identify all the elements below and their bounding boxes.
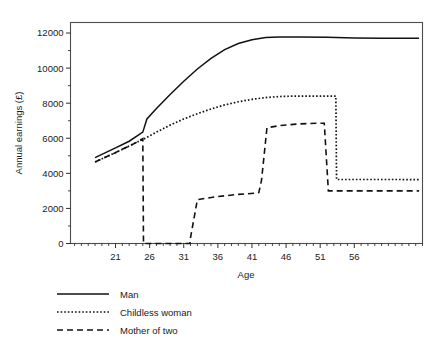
x-tick-label: 21 (110, 251, 121, 262)
x-tick-label: 56 (349, 251, 360, 262)
x-tick-label: 41 (247, 251, 258, 262)
y-tick-label: 2000 (42, 203, 63, 214)
x-tick-label: 51 (315, 251, 326, 262)
series-line-man (95, 37, 419, 158)
series-line-mother-of-two (95, 123, 419, 243)
x-tick-label: 46 (281, 251, 292, 262)
x-tick-label: 36 (213, 251, 224, 262)
y-axis-title: Annual earnings (£) (13, 92, 24, 175)
legend-label-man: Man (120, 289, 138, 300)
plot-frame (71, 23, 423, 244)
y-tick-label: 10000 (37, 63, 63, 74)
x-tick-label: 31 (178, 251, 189, 262)
chart-canvas: 020004000600080001000012000 212631364146… (0, 0, 442, 349)
y-axis-tick-labels: 020004000600080001000012000 (37, 27, 63, 248)
legend-label-childless-woman: Childless woman (120, 307, 192, 318)
x-axis-title: Age (238, 269, 255, 280)
x-tick-label: 26 (144, 251, 155, 262)
y-tick-label: 8000 (42, 98, 63, 109)
chart-legend: ManChildless womanMother of two (57, 289, 192, 336)
y-tick-label: 12000 (37, 27, 63, 38)
series-layer (95, 37, 419, 244)
x-axis-ticks (75, 244, 423, 249)
legend-label-mother-of-two: Mother of two (120, 325, 178, 336)
y-axis-ticks (66, 33, 71, 243)
x-axis-tick-labels: 2126313641465156 (110, 251, 359, 262)
y-tick-label: 6000 (42, 133, 63, 144)
y-tick-label: 0 (58, 238, 63, 249)
earnings-line-chart: 020004000600080001000012000 212631364146… (0, 0, 442, 349)
y-tick-label: 4000 (42, 168, 63, 179)
